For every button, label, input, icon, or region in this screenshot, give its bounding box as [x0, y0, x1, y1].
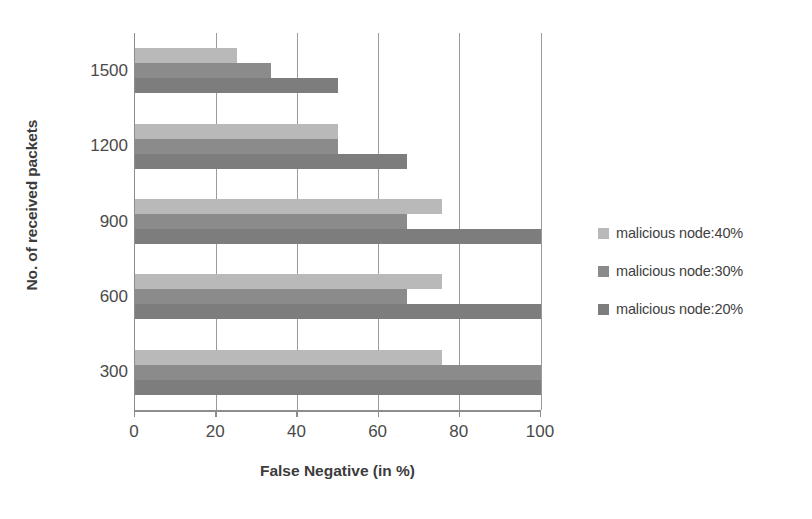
- y-axis-title: No. of received packets: [23, 95, 41, 315]
- y-tick-label-600: 600: [56, 287, 128, 307]
- x-tick-label-40: 40: [256, 422, 336, 442]
- y-tick-label-900: 900: [56, 212, 128, 232]
- bar-group-900: [135, 199, 541, 244]
- bar-600-series-1: [135, 274, 442, 289]
- y-tick-label-1500: 1500: [56, 61, 128, 81]
- x-axis-line: [134, 410, 541, 412]
- bar-1200-series-3: [135, 154, 407, 169]
- legend-swatch-icon-2: [598, 266, 609, 277]
- bar-group-1500: [135, 48, 541, 93]
- legend-swatch-icon-3: [598, 304, 609, 315]
- x-axis-title: False Negative (in %): [134, 462, 541, 480]
- x-tick-label-0: 0: [94, 422, 174, 442]
- bar-1500-series-3: [135, 78, 338, 93]
- bar-group-1200: [135, 124, 541, 169]
- bar-group-600: [135, 274, 541, 319]
- x-tick-mark-80: [459, 410, 460, 417]
- bar-900-series-1: [135, 199, 442, 214]
- bar-1200-series-1: [135, 124, 338, 139]
- bar-1500-series-1: [135, 48, 237, 63]
- bar-group-300: [135, 350, 541, 395]
- bar-900-series-3: [135, 229, 541, 244]
- x-tick-label-20: 20: [175, 422, 255, 442]
- y-axis-tick-labels: 15001200900600300: [50, 33, 128, 410]
- x-tick-mark-20: [215, 410, 216, 417]
- x-tick-mark-60: [378, 410, 379, 417]
- legend-label-1: malicious node:40%: [616, 225, 743, 241]
- bar-300-series-3: [135, 380, 541, 395]
- bar-1500-series-2: [135, 63, 271, 78]
- plot-area: [134, 33, 541, 410]
- bar-300-series-1: [135, 350, 442, 365]
- x-tick-label-80: 80: [419, 422, 499, 442]
- chart-legend: malicious node:40%malicious node:30%mali…: [598, 214, 808, 328]
- legend-label-3: malicious node:20%: [616, 301, 743, 317]
- bar-900-series-2: [135, 214, 407, 229]
- chart-figure: No. of received packets 1500120090060030…: [0, 0, 812, 519]
- bar-600-series-3: [135, 304, 541, 319]
- y-tick-label-1200: 1200: [56, 136, 128, 156]
- x-tick-mark-40: [296, 410, 297, 417]
- x-tick-mark-100: [540, 410, 541, 417]
- x-tick-label-60: 60: [338, 422, 418, 442]
- legend-swatch-icon-1: [598, 228, 609, 239]
- legend-item-2: malicious node:30%: [598, 252, 808, 290]
- x-tick-label-100: 100: [500, 422, 580, 442]
- y-tick-label-300: 300: [56, 362, 128, 382]
- bar-1200-series-2: [135, 139, 338, 154]
- bar-600-series-2: [135, 289, 407, 304]
- bar-300-series-2: [135, 365, 541, 380]
- legend-label-2: malicious node:30%: [616, 263, 743, 279]
- legend-item-1: malicious node:40%: [598, 214, 808, 252]
- x-tick-mark-0: [134, 410, 135, 417]
- legend-item-3: malicious node:20%: [598, 290, 808, 328]
